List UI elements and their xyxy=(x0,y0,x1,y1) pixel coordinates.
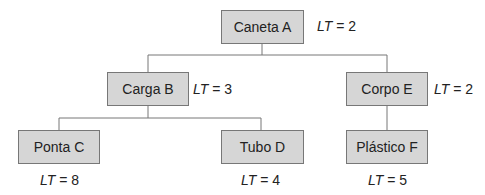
lead-time-b: LT = 3 xyxy=(193,81,232,97)
product-structure-tree: Caneta A LT = 2 Carga B LT = 3 Corpo E L… xyxy=(0,0,485,195)
node-plastico-f: Plástico F xyxy=(346,130,428,164)
node-ponta-c: Ponta C xyxy=(18,130,100,164)
lead-time-e: LT = 2 xyxy=(434,81,473,97)
connector-b-d xyxy=(148,118,261,130)
connector-b-c xyxy=(59,105,148,130)
connector-a-b xyxy=(148,43,262,72)
lt-var: LT xyxy=(241,172,256,188)
lt-value: = 8 xyxy=(59,172,79,188)
lt-value: = 3 xyxy=(212,81,232,97)
lead-time-f: LT = 5 xyxy=(368,172,407,188)
lt-value: = 2 xyxy=(453,81,473,97)
lt-var: LT xyxy=(368,172,383,188)
lead-time-c: LT = 8 xyxy=(40,172,79,188)
lt-var: LT xyxy=(193,81,208,97)
lt-var: LT xyxy=(40,172,55,188)
node-caneta-a: Caneta A xyxy=(221,10,304,44)
lt-value: = 5 xyxy=(387,172,407,188)
lead-time-a: LT = 2 xyxy=(317,18,356,34)
lt-value: = 4 xyxy=(260,172,280,188)
node-corpo-e: Corpo E xyxy=(346,72,428,106)
connector-a-e xyxy=(262,55,387,72)
lt-var: LT xyxy=(317,18,332,34)
node-carga-b: Carga B xyxy=(107,72,189,106)
lt-value: = 2 xyxy=(336,18,356,34)
lt-var: LT xyxy=(434,81,449,97)
node-tubo-d: Tubo D xyxy=(221,130,304,164)
lead-time-d: LT = 4 xyxy=(241,172,280,188)
